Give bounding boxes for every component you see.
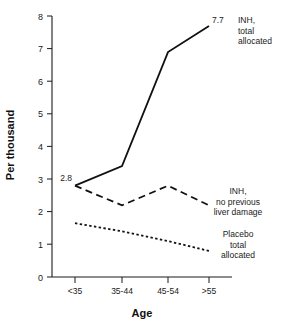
y-tick-label: 3 [38, 175, 43, 185]
y-tick-label: 4 [38, 142, 43, 152]
legend-label-line-3: liver damage [214, 207, 263, 217]
y-axis-tick-labels: 8 7 6 5 4 3 2 1 0 [38, 12, 43, 283]
legend-label-line-1: Placebo [223, 229, 254, 239]
x-axis-ticks [75, 277, 209, 283]
data-label-7-7: 7.7 [212, 15, 224, 25]
y-tick-label: 7 [38, 44, 43, 54]
legend-entry-inh-no-previous-liver-damage: INH, no previous liver damage [214, 186, 263, 217]
legend-label-line-2: total [238, 26, 254, 36]
data-label-2-8: 2.8 [60, 173, 72, 183]
y-tick-label: 0 [38, 273, 43, 283]
legend-label-line-1: INH, [230, 186, 247, 196]
line-chart: Per thousand 8 7 6 5 4 3 2 1 0 [0, 0, 284, 326]
legend-entry-inh-total-allocated: INH, total allocated [238, 15, 272, 46]
legend-label-line-3: allocated [238, 36, 272, 46]
series-line-inh-no-previous-liver-damage [75, 186, 209, 206]
y-tick-label: 6 [38, 77, 43, 87]
x-tick-label: <35 [68, 286, 83, 296]
x-tick-label: >55 [202, 286, 217, 296]
y-tick-label: 8 [38, 12, 43, 22]
x-tick-label: 45-54 [157, 286, 179, 296]
legend-label-line-1: INH, [238, 15, 255, 25]
y-tick-label: 5 [38, 109, 43, 119]
y-axis-title: Per thousand [4, 110, 16, 180]
legend-label-line-2: total [230, 240, 246, 250]
y-tick-label: 1 [38, 240, 43, 250]
legend-label-line-2: no previous [216, 197, 260, 207]
legend-label-line-3: allocated [221, 250, 255, 260]
legend-entry-placebo-total-allocated: Placebo total allocated [221, 229, 255, 260]
chart-canvas: Per thousand 8 7 6 5 4 3 2 1 0 [0, 0, 284, 326]
y-tick-label: 2 [38, 207, 43, 217]
x-tick-label: 35-44 [111, 286, 133, 296]
x-axis-tick-labels: <35 35-44 45-54 >55 [68, 286, 217, 296]
y-axis-ticks [47, 16, 52, 277]
series-line-placebo-total-allocated [75, 223, 209, 251]
x-axis-title: Age [132, 307, 153, 319]
series-line-inh-total-allocated [75, 26, 209, 186]
